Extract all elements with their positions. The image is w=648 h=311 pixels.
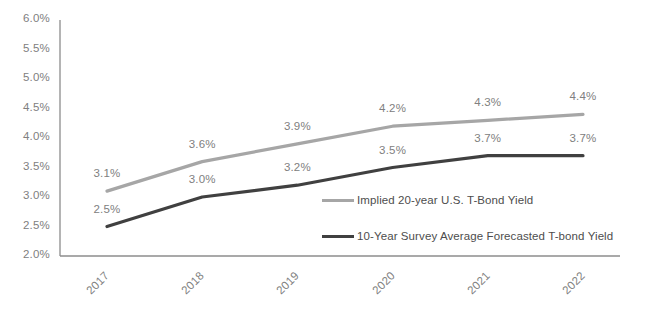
data-point-label: 3.0% [182, 173, 222, 185]
data-point-label: 4.4% [563, 90, 603, 102]
y-axis-tick-label: 4.5% [8, 101, 50, 113]
legend-label-implied-20-year: Implied 20-year U.S. T-Bond Yield [357, 194, 533, 206]
series-line-10-year-survey [107, 156, 583, 227]
legend-color-swatch-10-year-survey [322, 235, 354, 238]
y-axis-tick-label: 3.5% [8, 160, 50, 172]
series-line-implied-20-year [107, 114, 583, 191]
y-axis-tick-label: 5.0% [8, 71, 50, 83]
y-axis-tick-label: 6.0% [8, 12, 50, 24]
y-axis-tick-label: 2.0% [8, 248, 50, 260]
data-point-label: 3.9% [277, 120, 317, 132]
y-axis-tick-label: 3.0% [8, 189, 50, 201]
legend-item-10-year-survey[interactable]: 10-Year Survey Average Forecasted T-bond… [322, 230, 613, 242]
data-point-label: 3.1% [87, 167, 127, 179]
legend-item-implied-20-year[interactable]: Implied 20-year U.S. T-Bond Yield [322, 194, 533, 206]
legend-label-10-year-survey: 10-Year Survey Average Forecasted T-bond… [357, 230, 613, 242]
data-point-label: 4.3% [468, 96, 508, 108]
data-point-label: 3.7% [468, 132, 508, 144]
line-chart: 6.0%5.5%5.0%4.5%4.0%3.5%3.0%2.5%2.0% 201… [0, 0, 648, 311]
data-point-label: 3.7% [563, 132, 603, 144]
plot-area [0, 0, 648, 311]
y-axis-tick-label: 4.0% [8, 130, 50, 142]
data-point-label: 3.2% [277, 161, 317, 173]
y-axis-tick-label: 5.5% [8, 42, 50, 54]
data-point-label: 3.6% [182, 138, 222, 150]
legend-color-swatch-implied-20-year [322, 199, 354, 202]
data-point-label: 2.5% [87, 203, 127, 215]
data-point-label: 4.2% [373, 102, 413, 114]
y-axis-tick-label: 2.5% [8, 219, 50, 231]
data-point-label: 3.5% [373, 144, 413, 156]
